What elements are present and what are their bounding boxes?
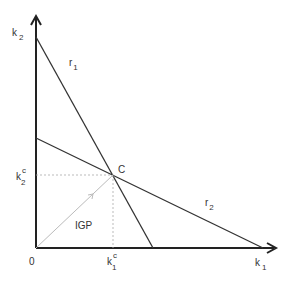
x-axis-label: k1: [255, 257, 267, 272]
line-r2: [36, 138, 263, 248]
diagram: k2 k1 0 r1 r2 C IGP kc2 kc1: [0, 0, 294, 282]
k1c-label: kc1: [107, 251, 117, 272]
igp-ray: [36, 175, 113, 248]
y-axis-label: k2: [12, 27, 24, 42]
igp-label: IGP: [75, 220, 93, 231]
origin-label: 0: [29, 256, 35, 267]
k2c-label: kc2: [16, 166, 26, 187]
line-r1: [36, 37, 153, 248]
point-c-label: C: [118, 164, 125, 175]
r2-label: r2: [205, 197, 214, 212]
r1-label: r1: [69, 57, 78, 72]
